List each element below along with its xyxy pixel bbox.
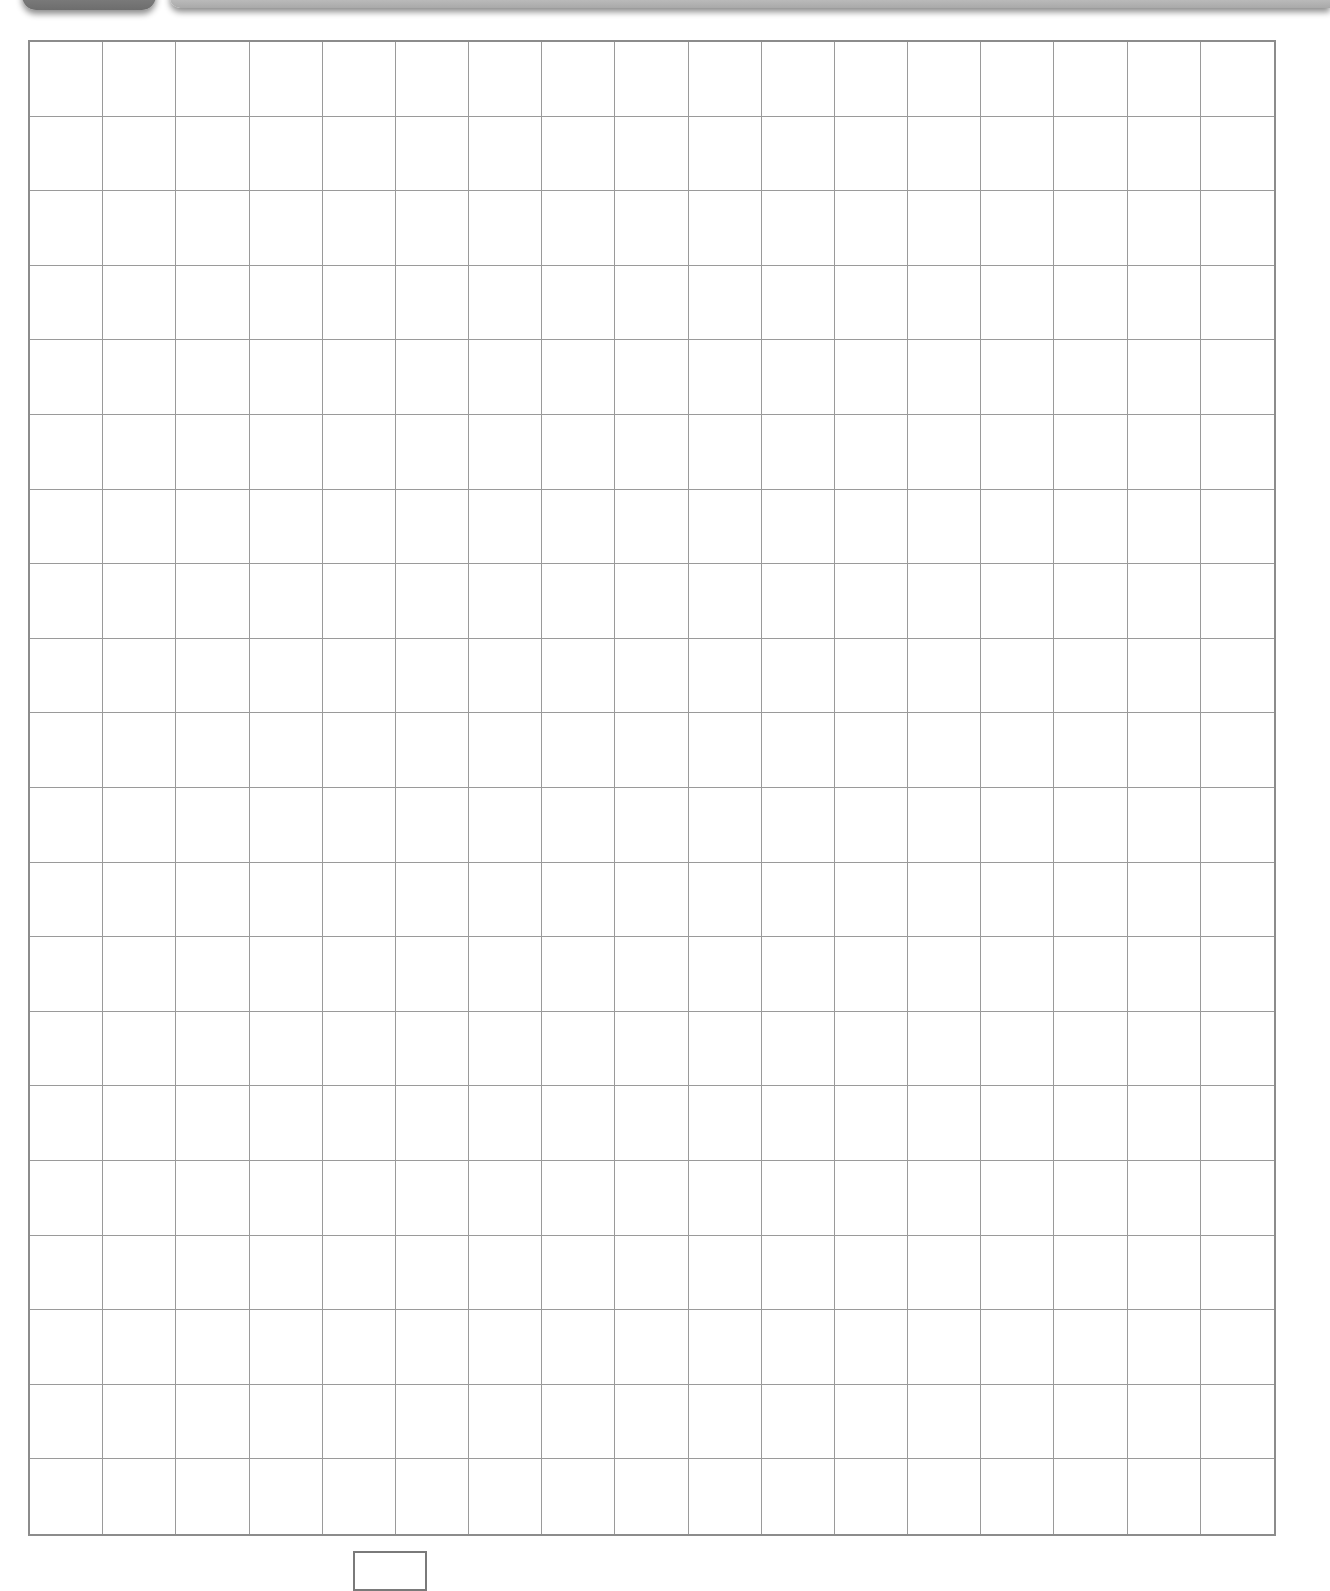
grid-cell <box>1201 788 1274 863</box>
grid-cell <box>1128 1086 1201 1161</box>
grid-cell <box>542 1310 615 1385</box>
grid-cell <box>908 1236 981 1311</box>
grid-cell <box>103 937 176 1012</box>
grid-cell <box>396 340 469 415</box>
grid-cell <box>103 564 176 639</box>
grid-cell <box>396 713 469 788</box>
grid-cell <box>323 1161 396 1236</box>
grid-cell <box>542 1086 615 1161</box>
grid-cell <box>1128 788 1201 863</box>
grid-cell <box>1054 788 1127 863</box>
grid-cell <box>469 863 542 938</box>
grid-cell <box>981 863 1054 938</box>
grid-cell <box>615 415 688 490</box>
grid-cell <box>981 1012 1054 1087</box>
grid-cell <box>30 266 103 341</box>
grid-cell <box>1054 639 1127 714</box>
grid-cell <box>30 415 103 490</box>
grid-cell <box>1128 490 1201 565</box>
answer-box[interactable] <box>353 1551 427 1591</box>
grid-cell <box>323 415 396 490</box>
grid-cell <box>908 42 981 117</box>
grid-cell <box>30 1310 103 1385</box>
grid-cell <box>469 713 542 788</box>
grid-cell <box>615 788 688 863</box>
grid-cell <box>176 415 249 490</box>
grid-cell <box>396 863 469 938</box>
grid-cell <box>615 1459 688 1534</box>
grid-cell <box>981 1385 1054 1460</box>
grid-cell <box>176 1385 249 1460</box>
grid-cell <box>1054 1012 1127 1087</box>
grid-cell <box>1054 937 1127 1012</box>
grid-cell <box>762 937 835 1012</box>
grid-cell <box>30 1385 103 1460</box>
graph-paper-grid <box>28 40 1276 1536</box>
grid-cell <box>250 415 323 490</box>
grid-cell <box>615 340 688 415</box>
grid-cell <box>1201 117 1274 192</box>
grid-cell <box>542 490 615 565</box>
grid-cell <box>30 490 103 565</box>
grid-cell <box>469 788 542 863</box>
grid-cell <box>981 788 1054 863</box>
grid-cell <box>689 1385 762 1460</box>
grid-cell <box>250 490 323 565</box>
grid-cell <box>250 117 323 192</box>
grid-cell <box>1054 1161 1127 1236</box>
grid-cell <box>103 788 176 863</box>
grid-cell <box>981 713 1054 788</box>
grid-cell <box>981 1459 1054 1534</box>
grid-cell <box>981 1236 1054 1311</box>
grid-cell <box>689 415 762 490</box>
grid-cell <box>1128 415 1201 490</box>
grid-cell <box>396 1385 469 1460</box>
grid-cell <box>762 1459 835 1534</box>
grid-cell <box>323 1459 396 1534</box>
grid-cell <box>542 564 615 639</box>
grid-cell <box>30 713 103 788</box>
grid-cell <box>30 1012 103 1087</box>
grid-cell <box>250 266 323 341</box>
grid-cell <box>396 490 469 565</box>
grid-cell <box>1128 340 1201 415</box>
grid-cell <box>30 639 103 714</box>
grid-cell <box>762 713 835 788</box>
grid-cell <box>1054 117 1127 192</box>
grid-cell <box>176 863 249 938</box>
grid-cell <box>176 937 249 1012</box>
grid-cell <box>30 937 103 1012</box>
grid-cell <box>908 1161 981 1236</box>
grid-cell <box>1128 713 1201 788</box>
grid-cell <box>1054 415 1127 490</box>
grid-cell <box>615 1012 688 1087</box>
grid-cell <box>103 117 176 192</box>
grid-cell <box>689 1086 762 1161</box>
grid-cell <box>469 340 542 415</box>
grid-cell <box>615 490 688 565</box>
grid-cell <box>469 1310 542 1385</box>
grid-cell <box>689 42 762 117</box>
grid-cell <box>103 639 176 714</box>
grid-cell <box>396 117 469 192</box>
grid-cell <box>250 1236 323 1311</box>
grid-cell <box>1128 266 1201 341</box>
grid-cell <box>689 1012 762 1087</box>
grid-cell <box>30 191 103 266</box>
grid-cell <box>689 117 762 192</box>
grid-cell <box>396 191 469 266</box>
grid-cell <box>908 639 981 714</box>
grid-cell <box>1054 1086 1127 1161</box>
grid-cell <box>1054 266 1127 341</box>
grid-cell <box>30 117 103 192</box>
grid-cell <box>176 564 249 639</box>
grid-cell <box>835 1012 908 1087</box>
grid-cell <box>323 490 396 565</box>
grid-cell <box>1054 340 1127 415</box>
grid-cell <box>469 1012 542 1087</box>
grid-cell <box>542 415 615 490</box>
grid-cell <box>981 1086 1054 1161</box>
grid-cell <box>835 1459 908 1534</box>
grid-cell <box>1128 1236 1201 1311</box>
grid-cell <box>1128 1012 1201 1087</box>
